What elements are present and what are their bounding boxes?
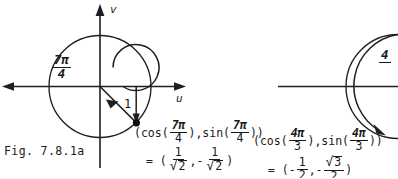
right-result-close: )	[345, 163, 352, 177]
right-result-prefix: = (-	[268, 163, 296, 177]
right-sqrt-radicand: 3	[333, 156, 342, 169]
right-angle-sweep-arc	[354, 35, 398, 132]
right-coord-angle-den-1: 3	[292, 141, 303, 153]
right-coord-mid: ),sin(	[307, 134, 349, 148]
right-result-separator: ,-	[309, 163, 323, 177]
angle-label-right: 4	[378, 50, 392, 64]
right-result-x-denominator: 2	[297, 170, 308, 179]
right-coord-open: (cos(	[253, 134, 288, 148]
coordinate-expression-right: (cos( 4π 3 ),sin( 4π 3 ))	[253, 129, 383, 153]
right-result-y-denominator: 2	[328, 171, 339, 179]
right-coord-close: ))	[369, 134, 383, 148]
right-coord-angle-den-2: 3	[353, 141, 364, 153]
figure-page: v u 7π 4 1 Fig. 7.8.1a (cos( 7π 4 ),sin(…	[0, 0, 398, 178]
right-angle-numerator: 4	[379, 49, 391, 63]
coordinate-result-right: = (- 1 2 ,- √3 2 )	[268, 157, 352, 178]
